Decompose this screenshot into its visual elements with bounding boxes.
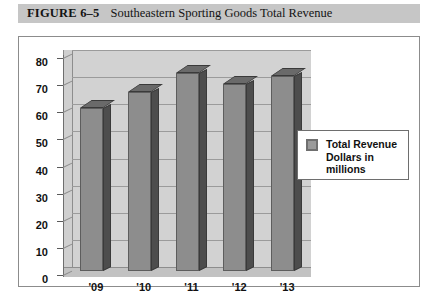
y-axis-tick [57,139,63,140]
y-axis-label: 30 [36,192,48,204]
bar-front-face [271,76,294,271]
bar-front-face [80,108,103,271]
y-axis-label: 80 [36,56,48,68]
legend-swatch-total-revenue [306,139,318,151]
x-axis-label: '10 [120,281,168,293]
x-axis-label: '11 [168,281,216,293]
bar-side-face [151,88,159,271]
figure-title: Southeastern Sporting Goods Total Revenu… [111,6,333,21]
bar-front-face [128,92,151,271]
bar-side-face [199,69,207,271]
x-axis-label: '09 [72,281,120,293]
y-axis-tick [57,275,63,276]
y-axis-tick [57,85,63,86]
bar [223,84,246,271]
bar-side-face [103,104,111,271]
y-axis-label: 40 [36,165,48,177]
y-axis-label: 0 [42,273,48,285]
bar-side-face [246,80,254,271]
x-axis-label: '12 [215,281,263,293]
figure-number: FIGURE 6–5 [27,6,100,21]
x-axis-label: '13 [263,281,311,293]
bar [128,92,151,271]
y-axis-label: 20 [36,219,48,231]
bar [80,108,103,271]
bar-front-face [223,84,246,271]
plot-area: 01020304050607080 '09'10'11'12'13 [45,45,311,281]
y-axis-tick [57,58,63,59]
y-axis-label: 70 [36,83,48,95]
bar [176,73,199,271]
y-axis-tick [57,248,63,249]
y-axis-label: 10 [36,246,48,258]
figure-caption-band: FIGURE 6–5 Southeastern Sporting Goods T… [18,4,420,23]
y-axis-label: 60 [36,110,48,122]
bar-front-face [176,73,199,271]
chart-legend: Total Revenue Dollars in millions [297,130,409,180]
gridline [72,50,311,51]
legend-label-total-revenue: Total Revenue Dollars in millions [326,138,397,176]
bar [271,76,294,271]
y-axis-tick [57,112,63,113]
y-axis-label: 50 [36,137,48,149]
chart-frame: 01020304050607080 '09'10'11'12'13 Total … [18,36,420,287]
